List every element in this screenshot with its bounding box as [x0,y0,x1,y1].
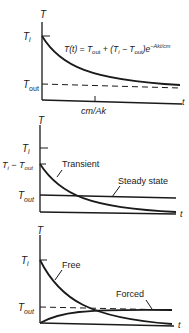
panel-transient-steady: T t Ti Ti − Tout Tout Transient Steady s… [2,115,183,219]
tout-label: Tout [18,190,35,203]
ti-label: Ti [23,31,31,43]
x-axis-label: t [182,97,185,107]
x-axis-label: t [178,320,181,330]
x-axis [40,323,174,326]
thermal-response-diagrams: T t Ti Tout cm/Ak T(t) = Tout + (Ti − To… [0,0,189,333]
ti-minus-tout-label: Ti − Tout [2,160,33,171]
steady-state-line [40,195,176,198]
forced-label: Forced [116,289,144,299]
steady-state-label: Steady state [118,176,168,186]
steady-leader [112,186,120,197]
panel-exponential-decay: T t Ti Tout cm/Ak T(t) = Tout + (Ti − To… [23,9,185,116]
transient-curve [40,164,176,212]
tout-dashed-line [42,84,180,88]
forced-response-curve [40,310,172,323]
transient-leader [57,170,62,177]
x-axis-label: t [180,209,183,219]
tout-label: Tout [18,302,35,315]
transient-label: Transient [62,159,100,169]
forced-leader [146,300,152,309]
equation: T(t) = Tout + (Ti − Tout)e−Akt/cm [64,43,171,55]
y-axis-label: T [38,115,45,126]
free-leader [55,270,62,280]
tout-label: Tout [23,79,39,92]
time-constant-label: cm/Ak [81,106,107,116]
x-axis [42,100,182,104]
ti-label: Ti [22,143,30,155]
free-label: Free [62,260,81,270]
y-axis-label: T [37,225,44,236]
ti-label: Ti [21,255,29,267]
x-axis [40,212,176,214]
y-axis-label: T [40,9,47,20]
free-response-curve [40,260,172,324]
panel-free-forced: T t Ti Tout Free Forced [18,225,181,330]
